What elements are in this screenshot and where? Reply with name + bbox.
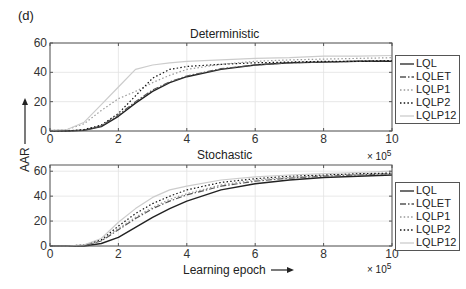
plot-deterministic: 02468100204060 <box>34 36 399 146</box>
legend-label: LQLP1 <box>416 83 450 96</box>
series-lqlp2 <box>50 173 392 246</box>
right-arrow-icon <box>270 265 296 275</box>
legend-item-lqlp2: LQLP2 <box>399 223 456 236</box>
svg-text:8: 8 <box>320 132 327 146</box>
svg-text:20: 20 <box>34 95 48 109</box>
svg-text:6: 6 <box>252 247 259 261</box>
plot-stochastic: 02468100204060 <box>34 164 399 261</box>
svg-text:4: 4 <box>183 247 190 261</box>
legend-deterministic: LQLLQLETLQLP1LQLP2LQLP12 <box>395 55 460 124</box>
legend-item-lqlet: LQLET <box>399 70 456 83</box>
svg-text:0: 0 <box>40 239 47 253</box>
legend-label: LQLP1 <box>416 210 450 223</box>
legend-item-lqlp12: LQLP12 <box>399 236 456 249</box>
legend-label: LQLP2 <box>416 223 450 236</box>
series-lqlp12 <box>50 171 392 246</box>
legend-label: LQLP2 <box>416 96 450 109</box>
svg-text:0: 0 <box>47 132 54 146</box>
legend-label: LQL <box>416 57 437 70</box>
series-lqlet <box>50 61 392 131</box>
legend-label: LQLP12 <box>416 109 456 122</box>
svg-text:0: 0 <box>47 247 54 261</box>
legend-swatch-icon <box>399 212 415 222</box>
legend-item-lqlp12: LQLP12 <box>399 109 456 122</box>
legend-swatch-icon <box>399 72 415 82</box>
svg-text:20: 20 <box>34 214 48 228</box>
legend-label: LQLET <box>416 197 451 210</box>
chart-title-stochastic: Stochastic <box>197 148 252 162</box>
legend-item-lqlet: LQLET <box>399 197 456 210</box>
y-axis-title: AAR <box>18 147 32 172</box>
svg-text:4: 4 <box>183 132 190 146</box>
legend-swatch-icon <box>399 111 415 121</box>
series-lqlp12 <box>50 56 392 131</box>
legend-item-lqlp1: LQLP1 <box>399 210 456 223</box>
legend-label: LQL <box>416 184 437 197</box>
svg-text:10: 10 <box>385 132 399 146</box>
svg-text:40: 40 <box>34 65 48 79</box>
svg-text:40: 40 <box>34 189 48 203</box>
legend-swatch-icon <box>399 238 415 248</box>
x-multiplier-top: × 105 <box>367 148 391 162</box>
svg-text:2: 2 <box>115 132 122 146</box>
legend-swatch-icon <box>399 186 415 196</box>
chart-title-deterministic: Deterministic <box>190 27 259 41</box>
legend-item-lql: LQL <box>399 184 456 197</box>
legend-item-lqlp2: LQLP2 <box>399 96 456 109</box>
series-lql <box>50 61 392 131</box>
legend-swatch-icon <box>399 59 415 69</box>
legend-swatch-icon <box>399 98 415 108</box>
legend-item-lqlp1: LQLP1 <box>399 83 456 96</box>
y-axis-label: AAR <box>18 148 32 228</box>
svg-text:8: 8 <box>320 247 327 261</box>
svg-text:60: 60 <box>34 36 48 50</box>
series-lqlp2 <box>50 61 392 131</box>
svg-text:0: 0 <box>40 124 47 138</box>
legend-swatch-icon <box>399 85 415 95</box>
legend-label: LQLP12 <box>416 236 456 249</box>
svg-text:2: 2 <box>115 247 122 261</box>
legend-swatch-icon <box>399 199 415 209</box>
x-axis-title-text: Learning epoch <box>183 263 266 277</box>
svg-text:60: 60 <box>34 164 48 178</box>
x-axis-title: Learning epoch <box>183 263 296 277</box>
legend-label: LQLET <box>416 70 451 83</box>
x-multiplier-bottom: × 105 <box>367 261 391 275</box>
legend-item-lql: LQL <box>399 57 456 70</box>
series-lqlp1 <box>50 174 392 246</box>
legend-swatch-icon <box>399 225 415 235</box>
legend-stochastic: LQLLQLETLQLP1LQLP2LQLP12 <box>395 182 460 251</box>
svg-text:6: 6 <box>252 132 259 146</box>
